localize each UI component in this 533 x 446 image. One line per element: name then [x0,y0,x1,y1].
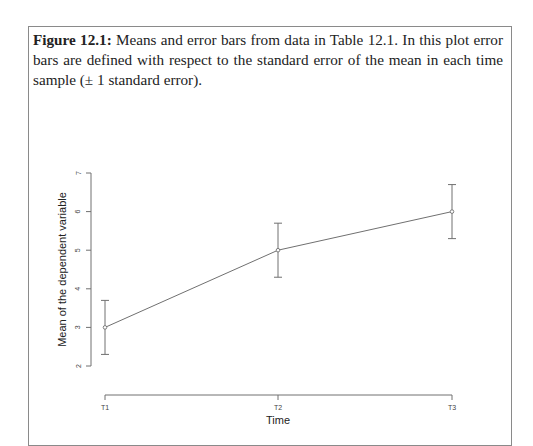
data-point [103,326,107,330]
y-axis-title: Mean of the dependent variable [56,192,68,347]
x-axis-title: Time [266,414,290,426]
y-tick-label: 3 [75,325,82,329]
y-tick-label: 4 [75,287,82,291]
y-tick-label: 6 [75,210,82,214]
y-tick-label: 7 [75,171,82,175]
x-tick-label: T1 [101,404,109,411]
data-point [450,210,454,214]
x-tick-label: T2 [274,404,282,411]
y-tick-label: 5 [75,248,82,252]
data-point [276,248,280,252]
x-tick-label: T3 [448,404,456,411]
y-tick-label: 2 [75,364,82,368]
